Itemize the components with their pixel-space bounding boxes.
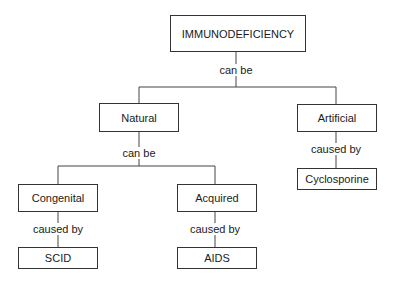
node-congenital: Congenital	[18, 184, 98, 212]
node-label: SCID	[45, 252, 71, 264]
node-label: Cyclosporine	[305, 173, 369, 185]
node-label: AIDS	[204, 252, 230, 264]
node-artificial: Artificial	[297, 104, 377, 132]
node-natural: Natural	[99, 103, 179, 132]
edge-label-congenital: caused by	[18, 223, 98, 235]
node-cyclosporine: Cyclosporine	[297, 168, 377, 190]
node-label: Congenital	[32, 192, 85, 204]
node-label: Acquired	[195, 192, 238, 204]
node-label: IMMUNODEFICIENCY	[182, 28, 294, 40]
node-aids: AIDS	[177, 247, 257, 269]
edge-label-acquired: caused by	[175, 223, 255, 235]
edge-label-artificial: caused by	[296, 143, 376, 155]
node-immunodeficiency: IMMUNODEFICIENCY	[170, 15, 306, 52]
edge-label-natural: can be	[99, 147, 179, 159]
node-acquired: Acquired	[177, 184, 257, 212]
node-scid: SCID	[18, 247, 98, 269]
node-label: Artificial	[318, 112, 357, 124]
edge-label-root: can be	[196, 64, 276, 76]
node-label: Natural	[121, 112, 156, 124]
